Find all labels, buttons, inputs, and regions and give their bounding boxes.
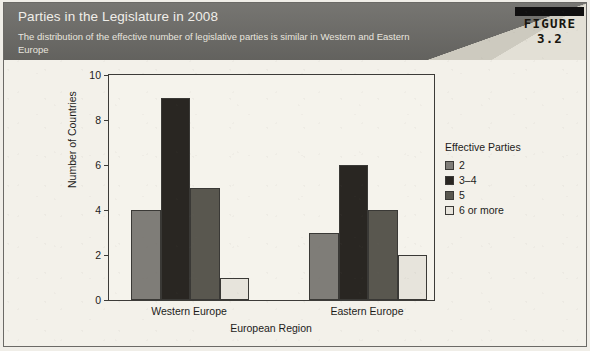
plot-area: 0246810 bbox=[108, 74, 435, 301]
y-tick-mark-10 bbox=[104, 75, 109, 76]
chart-body: Number of Countries 0246810 Western Euro… bbox=[4, 60, 587, 347]
figure-frame: Parties in the Legislature in 2008 The d… bbox=[3, 2, 587, 347]
legend-swatch-icon-2 bbox=[445, 161, 454, 170]
figure-screenshot: Parties in the Legislature in 2008 The d… bbox=[0, 0, 590, 351]
legend-item-5: 5 bbox=[445, 188, 565, 202]
bar-eastern-europe-series-1 bbox=[309, 233, 339, 301]
bar-western-europe-series-2 bbox=[161, 98, 191, 301]
bar-western-europe-series-3 bbox=[190, 188, 220, 301]
legend: Effective Parties 2 3–4 5 6 or more bbox=[445, 141, 565, 218]
legend-title: Effective Parties bbox=[445, 141, 565, 153]
legend-item-2: 2 bbox=[445, 158, 565, 172]
plot-inner: 0246810 bbox=[109, 75, 434, 300]
y-tick-mark-2 bbox=[104, 255, 109, 256]
y-tick-label-4: 4 bbox=[95, 204, 101, 216]
figure-header: Parties in the Legislature in 2008 The d… bbox=[4, 3, 587, 60]
y-tick-label-10: 10 bbox=[89, 69, 101, 81]
y-axis-title: Number of Countries bbox=[66, 91, 78, 188]
figure-number-bar bbox=[515, 7, 584, 16]
legend-item-6-or-more: 6 or more bbox=[445, 203, 565, 217]
legend-label-5: 5 bbox=[459, 189, 465, 201]
y-tick-label-2: 2 bbox=[95, 249, 101, 261]
bar-eastern-europe-series-4 bbox=[398, 255, 428, 300]
figure-title: Parties in the Legislature in 2008 bbox=[18, 9, 218, 24]
bar-western-europe-series-4 bbox=[220, 278, 250, 301]
x-axis-title: European Region bbox=[230, 322, 312, 334]
y-tick-label-8: 8 bbox=[95, 114, 101, 126]
legend-label-3-4: 3–4 bbox=[459, 174, 477, 186]
legend-label-6-or-more: 6 or more bbox=[459, 204, 504, 216]
y-tick-label-0: 0 bbox=[95, 294, 101, 306]
legend-item-3-4: 3–4 bbox=[445, 173, 565, 187]
legend-label-2: 2 bbox=[459, 159, 465, 171]
legend-swatch-icon-3-4 bbox=[445, 176, 454, 185]
y-tick-mark-6 bbox=[104, 165, 109, 166]
y-tick-mark-0 bbox=[104, 300, 109, 301]
x-group-label-western-europe: Western Europe bbox=[151, 305, 227, 317]
legend-swatch-icon-5 bbox=[445, 191, 454, 200]
figure-number-label: FIGURE 3.2 bbox=[513, 16, 587, 46]
bar-western-europe-series-1 bbox=[131, 210, 161, 300]
bar-eastern-europe-series-2 bbox=[339, 165, 369, 300]
legend-swatch-icon-6-or-more bbox=[445, 206, 454, 215]
y-tick-mark-4 bbox=[104, 210, 109, 211]
x-group-label-eastern-europe: Eastern Europe bbox=[331, 305, 404, 317]
y-tick-mark-8 bbox=[104, 120, 109, 121]
y-tick-label-6: 6 bbox=[95, 159, 101, 171]
bar-eastern-europe-series-3 bbox=[368, 210, 398, 300]
figure-subtitle: The distribution of the effective number… bbox=[18, 30, 428, 56]
